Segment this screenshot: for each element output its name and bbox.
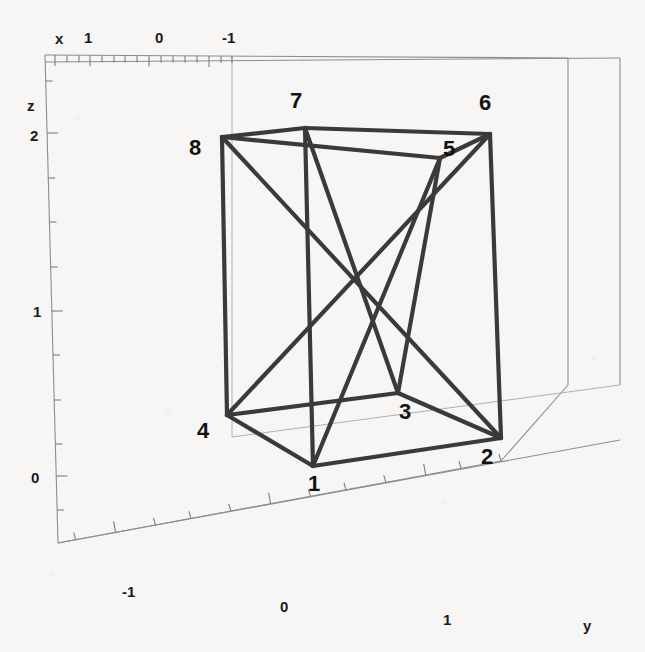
plot-canvas <box>0 0 645 652</box>
axis-ticks <box>46 55 501 540</box>
vertex-label-3: 3 <box>399 399 411 425</box>
y-tick-label-1: 0 <box>280 598 288 615</box>
plot-figure: x y z 10-1-101210 12345678 <box>0 0 645 652</box>
vertex-label-5: 5 <box>443 136 455 162</box>
vertex-label-8: 8 <box>189 135 201 161</box>
vertex-label-4: 4 <box>197 418 209 444</box>
vertex-label-1: 1 <box>308 471 320 497</box>
z-axis-label: z <box>27 97 35 114</box>
y-tick-label-2: 1 <box>443 611 451 628</box>
x-tick-label-1: 0 <box>155 29 163 46</box>
y-tick-label-0: -1 <box>122 583 135 600</box>
vertex-label-7: 7 <box>290 88 302 114</box>
y-axis-label: y <box>583 617 591 634</box>
cube-wireframe <box>222 128 501 466</box>
z-tick-label-0: 2 <box>30 127 38 144</box>
z-tick-label-1: 1 <box>33 303 41 320</box>
vertex-label-2: 2 <box>481 444 493 470</box>
z-tick-label-2: 0 <box>31 469 39 486</box>
x-axis-label: x <box>55 30 63 47</box>
vertex-label-6: 6 <box>479 90 491 116</box>
x-tick-label-0: 1 <box>84 29 92 46</box>
x-tick-label-2: -1 <box>222 29 235 46</box>
